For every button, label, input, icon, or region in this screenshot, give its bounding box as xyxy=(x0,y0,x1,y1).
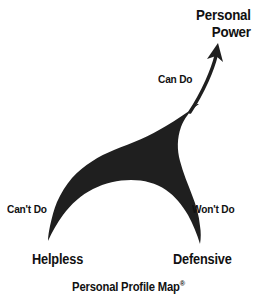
axis-title-line-1: Personal xyxy=(196,7,251,24)
label-wont-do: Won't Do xyxy=(192,203,234,215)
profile-map-body xyxy=(48,104,201,244)
label-cant-do: Can't Do xyxy=(7,203,47,215)
registered-trademark-icon: ® xyxy=(180,279,185,288)
label-defensive: Defensive xyxy=(173,252,232,268)
caption-text: Personal Profile Map xyxy=(72,280,180,294)
axis-title-line-2: Power xyxy=(196,24,251,41)
axis-title-personal-power: Personal Power xyxy=(196,7,251,40)
label-can-do: Can Do xyxy=(158,73,192,85)
diagram-caption: Personal Profile Map® xyxy=(13,280,244,295)
personal-power-arrow-shaft xyxy=(190,56,216,112)
personal-profile-map-diagram: Personal Power Can Do Can't Do Won't Do … xyxy=(0,0,257,300)
label-helpless: Helpless xyxy=(32,252,83,268)
